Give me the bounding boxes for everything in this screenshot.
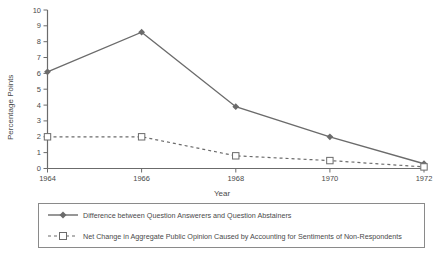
x-tick-label-1972: 1972 (416, 174, 433, 183)
square-icon (421, 164, 427, 170)
line-chart: Percentage Points 0 1 2 3 4 5 6 (0, 0, 433, 254)
x-tick-label-1970: 1970 (322, 174, 339, 183)
diamond-icon (60, 212, 67, 219)
square-icon (327, 157, 333, 163)
chart-legend: Difference between Question Answerers an… (39, 204, 425, 248)
legend-entry-0[interactable]: Difference between Question Answerers an… (48, 211, 292, 220)
y-tick-label-2: 2 (37, 132, 41, 141)
y-tick-label-4: 4 (37, 101, 41, 110)
series-dashed-line (48, 137, 425, 167)
diamond-icon (326, 133, 333, 140)
y-tick-label-6: 6 (37, 69, 41, 78)
series-solid-line (48, 32, 425, 164)
y-axis-tick-labels: 0 1 2 3 4 5 6 7 8 9 10 (33, 6, 41, 174)
square-icon (44, 134, 50, 140)
legend-entry-1[interactable]: Net Change in Aggregate Public Opinion C… (48, 232, 402, 241)
y-tick-label-8: 8 (37, 37, 41, 46)
square-icon (60, 233, 67, 240)
x-axis-title: Year (214, 189, 231, 198)
y-axis-title: Percentage Points (6, 75, 15, 140)
y-tick-label-5: 5 (37, 85, 41, 94)
legend-entry-0-label: Difference between Question Answerers an… (83, 211, 292, 220)
series-difference-answerers-abstainers (44, 29, 427, 167)
x-axis-ticks (48, 169, 425, 173)
legend-entry-1-label: Net Change in Aggregate Public Opinion C… (83, 232, 402, 241)
y-axis-title-text: Percentage Points (6, 75, 15, 140)
y-tick-label-3: 3 (37, 116, 41, 125)
y-tick-label-10: 10 (33, 6, 41, 15)
square-icon (233, 153, 239, 159)
y-tick-label-0: 0 (37, 164, 41, 173)
x-tick-label-1966: 1966 (133, 174, 150, 183)
series-net-change-aggregate-opinion (44, 134, 427, 171)
square-icon (138, 134, 144, 140)
y-tick-label-9: 9 (37, 21, 41, 30)
x-axis-tick-labels: 1964 1966 1968 1970 1972 (39, 174, 432, 183)
y-tick-label-7: 7 (37, 53, 41, 62)
diamond-icon (44, 68, 51, 75)
series-dashed-markers (44, 134, 427, 171)
x-tick-label-1964: 1964 (39, 174, 56, 183)
x-tick-label-1968: 1968 (227, 174, 244, 183)
chart-canvas: Percentage Points 0 1 2 3 4 5 6 (0, 0, 433, 254)
y-tick-label-1: 1 (37, 148, 41, 157)
